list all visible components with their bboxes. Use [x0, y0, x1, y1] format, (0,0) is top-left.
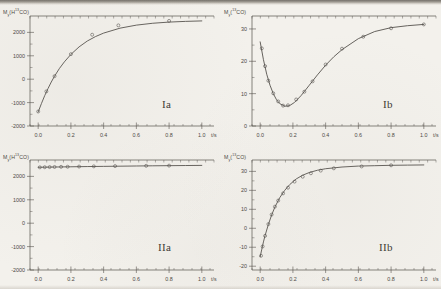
svg-text:-1000: -1000 — [11, 100, 25, 106]
svg-text:t/s: t/s — [433, 132, 439, 138]
svg-text:0.2: 0.2 — [67, 276, 75, 282]
svg-text:20: 20 — [241, 187, 247, 193]
svg-text:0.4: 0.4 — [322, 132, 330, 138]
svg-text:0.4: 0.4 — [100, 132, 108, 138]
scan-artifact-band-bottom — [0, 285, 441, 289]
svg-text:-10: -10 — [239, 244, 247, 250]
svg-text:0.0: 0.0 — [256, 276, 264, 282]
svg-text:10: 10 — [241, 91, 247, 97]
svg-text:0: 0 — [244, 225, 247, 231]
svg-text:0.6: 0.6 — [355, 276, 363, 282]
svg-text:0.8: 0.8 — [165, 132, 173, 138]
svg-text:t/s: t/s — [433, 276, 439, 282]
svg-text:2000: 2000 — [13, 173, 25, 179]
svg-text:-2000: -2000 — [11, 267, 25, 273]
panel-Ia: My(H13CO) Ia 0.00.20.40.60.81.0t/s200010… — [0, 0, 220, 145]
panel-IIa: My(H13CO) IIa 0.00.20.40.60.81.0t/s20001… — [0, 145, 220, 289]
svg-text:1000: 1000 — [13, 197, 25, 203]
svg-text:0.0: 0.0 — [34, 132, 42, 138]
svg-text:30: 30 — [241, 168, 247, 174]
svg-text:30: 30 — [241, 26, 247, 32]
svg-text:1000: 1000 — [13, 53, 25, 59]
svg-text:0.2: 0.2 — [289, 132, 297, 138]
svg-text:0: 0 — [22, 220, 25, 226]
svg-text:0.6: 0.6 — [133, 276, 141, 282]
panel-IIa-plot: 0.00.20.40.60.81.0t/s200010000-1000-2000 — [0, 145, 220, 289]
svg-text:0: 0 — [244, 123, 247, 129]
svg-text:2000: 2000 — [13, 29, 25, 35]
svg-text:0.6: 0.6 — [355, 132, 363, 138]
svg-text:1.0: 1.0 — [198, 132, 206, 138]
svg-text:0.4: 0.4 — [322, 276, 330, 282]
figure-panel-grid: My(H13CO) Ia 0.00.20.40.60.81.0t/s200010… — [0, 0, 441, 289]
svg-text:t/s: t/s — [211, 132, 217, 138]
svg-text:t/s: t/s — [211, 276, 217, 282]
svg-text:-1000: -1000 — [11, 244, 25, 250]
svg-text:0.8: 0.8 — [165, 276, 173, 282]
svg-text:0.8: 0.8 — [387, 276, 395, 282]
panel-IIb-plot: 0.00.20.40.60.81.0t/s3020100-10-20 — [220, 145, 441, 289]
svg-text:0.0: 0.0 — [256, 132, 264, 138]
svg-text:1.0: 1.0 — [420, 276, 428, 282]
svg-text:0.4: 0.4 — [100, 276, 108, 282]
svg-text:1.0: 1.0 — [420, 132, 428, 138]
svg-text:0.0: 0.0 — [34, 276, 42, 282]
panel-Ib: My(13CO) Ib 0.00.20.40.60.81.0t/s3020100 — [220, 0, 441, 145]
svg-text:0.2: 0.2 — [67, 132, 75, 138]
panel-Ib-plot: 0.00.20.40.60.81.0t/s3020100 — [220, 0, 441, 145]
svg-text:0.2: 0.2 — [289, 276, 297, 282]
svg-text:0: 0 — [22, 76, 25, 82]
svg-text:-20: -20 — [239, 263, 247, 269]
svg-text:10: 10 — [241, 206, 247, 212]
svg-text:0.8: 0.8 — [387, 132, 395, 138]
svg-text:0.6: 0.6 — [133, 132, 141, 138]
svg-text:1.0: 1.0 — [198, 276, 206, 282]
panel-Ia-plot: 0.00.20.40.60.81.0t/s200010000-1000-2000 — [0, 0, 220, 145]
svg-text:-2000: -2000 — [11, 123, 25, 129]
panel-IIb: My(13CO) IIb 0.00.20.40.60.81.0t/s302010… — [220, 145, 441, 289]
svg-text:20: 20 — [241, 58, 247, 64]
